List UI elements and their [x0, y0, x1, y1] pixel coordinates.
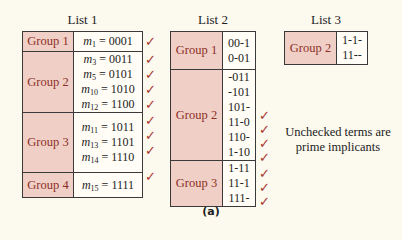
- note-line-2: prime implicants: [276, 140, 400, 155]
- group-label: Group 3: [171, 161, 223, 207]
- group-terms: m15 = 1111: [74, 173, 143, 198]
- group-terms: 1-1- 11--: [337, 32, 368, 65]
- list1-group3-row: Group 3 m11 = 1011 m13 = 1101 m14 = 1110: [23, 113, 143, 173]
- check-icon: ✓: [259, 150, 270, 165]
- implicant: -011: [223, 70, 255, 85]
- list1-table: Group 1 m1 = 0001 Group 2 m3 = 0011 m5 =…: [22, 31, 143, 198]
- implicant: 1-11: [223, 161, 255, 176]
- minterm: m15 = 1111: [74, 178, 142, 193]
- check-icon: ✓: [145, 82, 156, 97]
- list1-group1-row: Group 1 m1 = 0001: [23, 32, 143, 52]
- implicant: 1-10: [223, 145, 255, 160]
- group-terms: m1 = 0001: [74, 32, 143, 52]
- check-icon: ✓: [259, 180, 270, 195]
- group-terms: m3 = 0011 m5 = 0101 m10 = 1010 m12 = 110…: [74, 52, 143, 113]
- group-label: Group 3: [23, 113, 74, 173]
- group-label: Group 2: [171, 70, 223, 161]
- list3-group2-row: Group 2 1-1- 11--: [285, 32, 368, 65]
- list1-title: List 1: [22, 12, 143, 28]
- implicant: 11-1: [223, 176, 255, 191]
- group-label: Group 2: [285, 32, 337, 65]
- group-label: Group 1: [171, 32, 223, 70]
- list2-title: List 2: [170, 12, 256, 28]
- minterm: m1 = 0001: [74, 34, 142, 49]
- list3-title: List 3: [284, 12, 368, 28]
- list1-group2-row: Group 2 m3 = 0011 m5 = 0101 m10 = 1010 m…: [23, 52, 143, 113]
- group-terms: m11 = 1011 m13 = 1101 m14 = 1110: [74, 113, 143, 173]
- implicant: 11--: [337, 48, 367, 63]
- check-icon: ✓: [259, 136, 270, 151]
- list3-table: Group 2 1-1- 11--: [284, 31, 368, 65]
- check-icon: ✓: [145, 128, 156, 143]
- implicant: 110-: [223, 130, 255, 145]
- list2-group2-row: Group 2 -011 -101 101- 11-0 110- 1-10: [171, 70, 256, 161]
- implicant: 101-: [223, 100, 255, 115]
- check-icon: ✓: [145, 169, 156, 184]
- group-label: Group 2: [23, 52, 74, 113]
- check-icon: ✓: [145, 143, 156, 158]
- check-icon: ✓: [259, 122, 270, 137]
- list2-table: Group 1 00-1 0-01 Group 2 -011 -101 101-…: [170, 31, 256, 207]
- implicant: 00-1: [223, 36, 255, 51]
- minterm: m11 = 1011: [74, 120, 142, 135]
- figure-caption: (a): [200, 205, 222, 218]
- check-icon: ✓: [259, 194, 270, 209]
- group-label: Group 1: [23, 32, 74, 52]
- note-line-1: Unchecked terms are: [276, 125, 400, 140]
- note-text: Unchecked terms are prime implicants: [276, 125, 400, 155]
- check-icon: ✓: [145, 97, 156, 112]
- minterm: m13 = 1101: [74, 135, 142, 150]
- implicant: 111-: [223, 191, 255, 206]
- check-icon: ✓: [145, 34, 156, 49]
- check-icon: ✓: [259, 166, 270, 181]
- check-icon: ✓: [145, 113, 156, 128]
- minterm: m14 = 1110: [74, 150, 142, 165]
- group-terms: 00-1 0-01: [223, 32, 256, 70]
- group-label: Group 4: [23, 173, 74, 198]
- group-terms: 1-11 11-1 111-: [223, 161, 256, 207]
- implicant: -101: [223, 85, 255, 100]
- minterm: m3 = 0011: [74, 52, 142, 67]
- check-icon: ✓: [145, 67, 156, 82]
- implicant: 0-01: [223, 51, 255, 66]
- implicant: 1-1-: [337, 33, 367, 48]
- list2-group1-row: Group 1 00-1 0-01: [171, 32, 256, 70]
- implicant: 11-0: [223, 115, 255, 130]
- check-icon: ✓: [145, 52, 156, 67]
- check-icon: ✓: [259, 108, 270, 123]
- minterm: m12 = 1100: [74, 97, 142, 112]
- group-terms: -011 -101 101- 11-0 110- 1-10: [223, 70, 256, 161]
- minterm: m5 = 0101: [74, 67, 142, 82]
- minterm: m10 = 1010: [74, 82, 142, 97]
- list2-group3-row: Group 3 1-11 11-1 111-: [171, 161, 256, 207]
- list1-group4-row: Group 4 m15 = 1111: [23, 173, 143, 198]
